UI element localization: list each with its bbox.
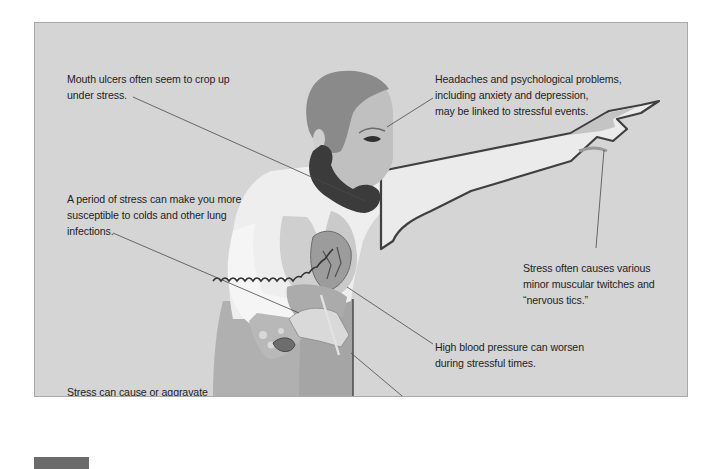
annotation-mouth-ulcers: Mouth ulcers often seem to crop up under… — [67, 71, 230, 103]
annotation-lung-infections: A period of stress can make you more sus… — [67, 191, 241, 240]
figure-number-tab — [34, 457, 89, 469]
annotation-headaches: Headaches and psychological problems, in… — [435, 71, 622, 120]
figure-panel: Mouth ulcers often seem to crop up under… — [34, 22, 688, 397]
annotation-blood-pressure: High blood pressure can worsen during st… — [435, 339, 584, 371]
pointing-arm-illustration — [381, 101, 659, 249]
annotation-digestive-problems: Stress can cause or aggravate gastritis,… — [67, 384, 217, 397]
annotation-muscular-twitches: Stress often causes various minor muscul… — [523, 260, 655, 309]
